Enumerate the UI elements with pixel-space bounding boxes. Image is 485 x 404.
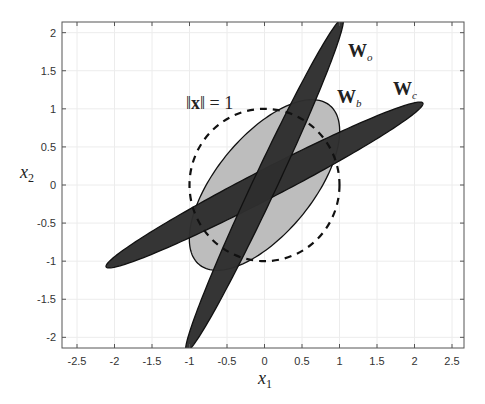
y-tick-label: -2: [46, 331, 56, 343]
chart: -2.5-2-1.5-1-0.500.511.522.521.510.50-0.…: [0, 0, 485, 404]
y-tick-label: 0.5: [41, 141, 56, 153]
y-tick-label: 1: [50, 103, 56, 115]
y-tick-label: 0: [50, 179, 56, 191]
y-tick-label: 1.5: [41, 65, 56, 77]
x-tick-label: 0.5: [294, 355, 309, 367]
x-tick-label: 2: [411, 355, 417, 367]
label-unit-norm: ‖x‖ = 1: [186, 93, 233, 113]
x-tick-label: -1: [185, 355, 195, 367]
x-tick-label: -1.5: [143, 355, 162, 367]
x-tick-label: -2.5: [68, 355, 87, 367]
y-tick-label: -1: [46, 255, 56, 267]
x-tick-label: 1.5: [369, 355, 384, 367]
y-tick-label: -0.5: [37, 217, 56, 229]
x-tick-label: -2: [110, 355, 120, 367]
x-axis-label: x1: [257, 368, 272, 391]
x-tick-label: 1: [336, 355, 342, 367]
x-tick-label: -0.5: [218, 355, 237, 367]
y-axis-label: x2: [19, 162, 34, 185]
y-tick-label: -1.5: [37, 293, 56, 305]
x-tick-label: 2.5: [444, 355, 459, 367]
x-tick-label: 0: [261, 355, 267, 367]
y-tick-label: 2: [50, 27, 56, 39]
